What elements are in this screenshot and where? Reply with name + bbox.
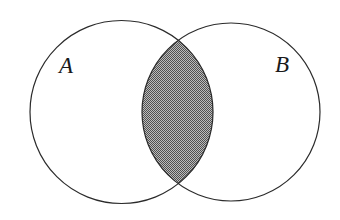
venn-diagram-figure: Venn diagram of two intersecting sets Tw… xyxy=(0,0,340,220)
set-label-b: B xyxy=(275,52,289,77)
set-label-a: A xyxy=(57,53,74,78)
venn-diagram-canvas: Venn diagram of two intersecting sets Tw… xyxy=(0,0,340,220)
